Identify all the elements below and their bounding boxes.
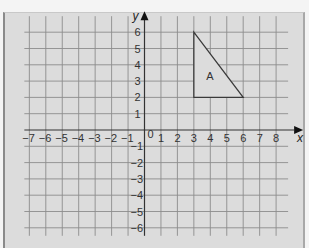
x-tick-label: 7	[257, 132, 263, 144]
x-tick-label: −5	[55, 132, 68, 144]
y-tick-label: 6	[135, 26, 141, 38]
origin-label: 0	[148, 128, 154, 140]
x-tick-label: −4	[72, 132, 85, 144]
y-axis-arrow-icon	[141, 11, 149, 20]
y-tick-label: −3	[131, 173, 144, 185]
y-tick-label: −1	[131, 140, 144, 152]
x-tick-label: 5	[224, 132, 230, 144]
y-tick-label: −4	[131, 189, 144, 201]
x-tick-label: −7	[22, 132, 35, 144]
x-tick-label: 3	[191, 132, 197, 144]
y-tick-label: −2	[131, 157, 144, 169]
coordinate-grid: xy−7−6−5−4−3−2−112345678654321−1−2−3−4−5…	[0, 0, 309, 248]
y-tick-label: 1	[135, 108, 141, 120]
x-tick-label: 8	[273, 132, 279, 144]
x-tick-label: 2	[174, 132, 180, 144]
x-tick-label: 4	[207, 132, 213, 144]
y-tick-label: 4	[135, 59, 141, 71]
x-tick-label: −6	[39, 132, 52, 144]
y-tick-label: 3	[135, 75, 141, 87]
x-tick-label: 6	[240, 132, 246, 144]
y-tick-label: −5	[131, 206, 144, 218]
y-tick-label: 5	[135, 43, 141, 55]
y-tick-label: −6	[131, 222, 144, 234]
y-tick-label: 2	[135, 91, 141, 103]
x-axis-label: x	[296, 131, 304, 145]
shape-label: A	[206, 70, 214, 82]
y-axis-label: y	[132, 9, 140, 23]
x-tick-label: −3	[88, 132, 101, 144]
x-tick-label: 1	[158, 132, 164, 144]
x-tick-label: −2	[105, 132, 118, 144]
